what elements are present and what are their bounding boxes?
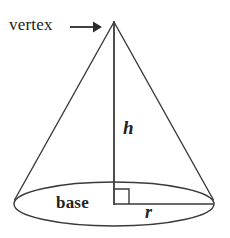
vertex-arrow-icon xyxy=(70,22,102,33)
height-label: h xyxy=(123,118,134,137)
vertex-label: vertex xyxy=(9,16,53,33)
right-angle-marker-icon xyxy=(114,189,129,204)
radius-label: r xyxy=(145,203,152,221)
cone-diagram: vertex base h r xyxy=(0,0,230,238)
cone-right-slant-line xyxy=(114,22,214,200)
cone-left-slant-line xyxy=(15,22,115,200)
base-label: base xyxy=(56,194,89,211)
cone-figure-svg xyxy=(0,0,230,238)
